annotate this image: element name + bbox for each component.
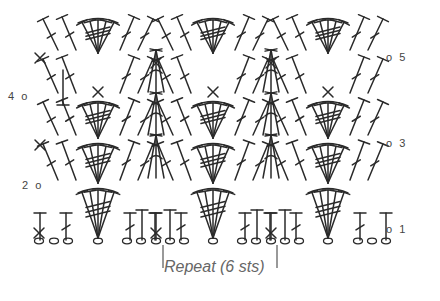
double-crochet-icon: [213, 190, 235, 238]
double-crochet-icon: [350, 15, 370, 50]
single-crochet-icon: [93, 87, 103, 97]
double-crochet-icon: [138, 16, 158, 50]
double-crochet-icon: [38, 100, 58, 135]
row-label-1: o 1: [386, 223, 407, 235]
double-crochet-icon: [120, 55, 140, 93]
double-crochet-icon: [268, 16, 288, 50]
double-crochet-icon: [368, 16, 388, 50]
double-crochet-icon: [98, 145, 119, 183]
double-crochet-icon: [77, 145, 98, 183]
chain-stitch-icon: [50, 238, 59, 244]
double-crochet-icon: [253, 16, 273, 50]
double-crochet-icon: [350, 140, 370, 180]
double-crochet-icon: [150, 213, 162, 240]
double-crochet-icon: [37, 142, 58, 180]
double-crochet-icon: [171, 98, 191, 135]
double-crochet-icon: [38, 57, 58, 93]
double-crochet-icon: [171, 15, 191, 50]
double-crochet-icon: [98, 190, 120, 238]
double-crochet-icon: [350, 55, 370, 93]
row-label-4: 4 o: [8, 90, 29, 102]
double-crochet-icon: [239, 213, 251, 240]
double-crochet-icon: [307, 145, 328, 183]
double-crochet-icon: [354, 213, 366, 240]
single-crochet-icon: [34, 228, 44, 238]
chain-stitch-icon: [368, 238, 377, 244]
double-crochet-icon: [265, 213, 277, 240]
double-crochet-icon: [290, 213, 302, 240]
double-crochet-icon: [164, 210, 176, 240]
chain-stitch-icon: [35, 238, 44, 244]
double-crochet-icon: [175, 213, 187, 240]
repeat-label: Repeat (6 sts): [164, 258, 264, 276]
double-crochet-icon: [235, 140, 255, 180]
double-crochet-icon: [120, 15, 140, 50]
double-crochet-icon: [120, 140, 140, 180]
double-crochet-icon: [279, 210, 291, 240]
double-crochet-icon: [235, 55, 255, 93]
chain-stitch-icon: [94, 238, 103, 244]
double-crochet-icon: [328, 190, 350, 238]
double-crochet-icon: [171, 140, 191, 180]
row-label-5: o 5: [386, 51, 407, 63]
double-crochet-icon: [153, 16, 173, 50]
double-crochet-icon: [57, 70, 69, 105]
double-crochet-icon: [56, 140, 76, 180]
double-crochet-icon: [56, 98, 76, 135]
single-crochet-icon: [323, 87, 333, 97]
double-crochet-icon: [235, 98, 255, 135]
double-crochet-icon: [350, 98, 370, 135]
double-crochet-icon: [368, 100, 388, 135]
row-label-3: o 3: [386, 137, 407, 149]
chain-stitch-icon: [209, 238, 218, 244]
double-crochet-icon: [328, 145, 349, 183]
double-crochet-icon: [286, 15, 306, 50]
chain-stitch-icon: [252, 238, 261, 244]
chain-stitch-icon: [354, 238, 363, 244]
double-crochet-icon: [286, 140, 306, 180]
double-crochet-icon: [235, 15, 255, 50]
crochet-chart: [0, 0, 440, 301]
chain-stitch-icon: [137, 238, 146, 244]
double-crochet-icon: [124, 213, 136, 240]
double-crochet-icon: [192, 145, 213, 183]
double-crochet-icon: [60, 213, 72, 240]
chain-stitch-icon: [324, 238, 333, 244]
double-crochet-icon: [56, 55, 76, 93]
row-label-2: 2 o: [22, 179, 43, 191]
chain-stitch-icon: [64, 238, 73, 244]
double-crochet-icon: [286, 55, 306, 93]
double-crochet-icon: [136, 210, 148, 240]
double-crochet-icon: [213, 145, 234, 183]
double-crochet-icon: [38, 16, 58, 50]
double-crochet-icon: [120, 98, 140, 135]
double-crochet-icon: [286, 98, 306, 135]
double-crochet-icon: [171, 55, 191, 93]
single-crochet-icon: [208, 87, 218, 97]
double-crochet-icon: [56, 15, 76, 50]
double-crochet-icon: [251, 210, 263, 240]
